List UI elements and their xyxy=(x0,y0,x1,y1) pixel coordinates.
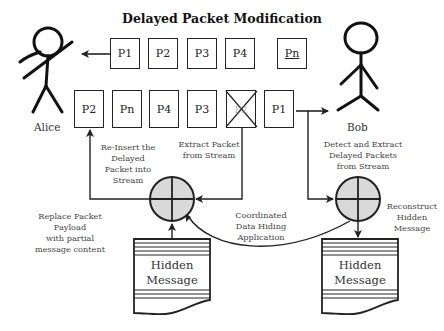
bottom-packet-p4: P4 xyxy=(149,90,179,128)
extract-label: Extract Packet from Stream xyxy=(178,139,240,161)
reinsert-label: Re-Insert the Delayed Packet into Stream xyxy=(93,142,163,186)
replace-payload-label: Replace Packet Payload with partial mess… xyxy=(30,211,110,255)
diagram-title: Delayed Packet Modification xyxy=(0,11,444,26)
alice-figure-icon xyxy=(20,28,72,112)
top-packet-p1: P1 xyxy=(110,38,140,69)
right-doc-text: Hidden Message xyxy=(322,258,398,288)
detect-label: Detect and Extract Delayed Packets from … xyxy=(316,139,410,172)
top-packet-p2: P2 xyxy=(148,38,178,69)
top-packet-p3: P3 xyxy=(187,38,217,69)
bottom-packet-p2: P2 xyxy=(74,90,104,128)
alice-label: Alice xyxy=(34,121,60,133)
left-doc-text: Hidden Message xyxy=(134,258,210,288)
right-combiner-icon xyxy=(336,177,380,221)
bob-figure-icon xyxy=(338,23,378,110)
bob-label: Bob xyxy=(347,121,368,133)
top-packet-p4: P4 xyxy=(225,38,255,69)
bottom-packet-pn: Pn xyxy=(112,90,142,128)
bottom-packet-extracted: P2 xyxy=(226,90,256,128)
reconstruct-label: Reconstruct Hidden Message xyxy=(380,201,444,234)
bottom-packet-p3: P3 xyxy=(187,90,217,128)
top-packet-pn: Pn xyxy=(277,38,307,69)
bottom-packet-p1: P1 xyxy=(264,90,294,128)
coordinated-label: Coordinated Data Hiding Application xyxy=(230,210,292,243)
